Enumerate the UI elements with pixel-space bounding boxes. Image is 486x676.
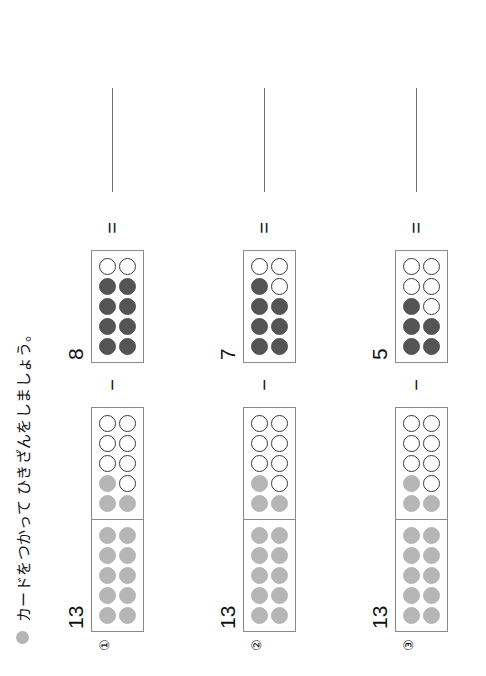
ten-frame-full (396, 520, 447, 631)
filled-circle-bullet-icon (16, 631, 29, 644)
counter-dot-empty (403, 278, 420, 295)
problem-row: ③ 13 − 5 = (348, 88, 468, 658)
counter-dot-empty (119, 258, 136, 275)
counter-dot-empty (99, 435, 116, 452)
counter-dot-filled (271, 495, 288, 512)
subtrahend-label: 5 (369, 348, 390, 360)
counter-dot-empty (403, 415, 420, 432)
counter-dot-filled (251, 547, 268, 564)
minuend-card (243, 407, 296, 632)
problem-number: ② (249, 632, 264, 658)
counter-dot-empty (99, 258, 116, 275)
counter-dot-filled (119, 278, 136, 295)
subtrahend-card-block: 8 (65, 250, 144, 363)
counter-dot-empty (119, 415, 136, 432)
ten-frame-full (92, 520, 143, 631)
counter-dot-empty (423, 435, 440, 452)
subtrahend-card (243, 250, 296, 363)
counter-dot-filled (403, 318, 420, 335)
counter-dot-filled (403, 527, 420, 544)
counter-dot-filled (99, 547, 116, 564)
counter-dot-filled (403, 567, 420, 584)
counter-dot-empty (423, 258, 440, 275)
counter-dot-filled (271, 527, 288, 544)
counter-dot-empty (403, 258, 420, 275)
counter-dot-filled (423, 318, 440, 335)
counter-dot-filled (271, 338, 288, 355)
counter-dot-empty (271, 455, 288, 472)
equals-operator: = (390, 206, 426, 250)
counter-dot-filled (423, 587, 440, 604)
counter-dot-filled (99, 318, 116, 335)
worksheet-title-text: カードをつかって ひきざんをしましょう。 (12, 327, 33, 622)
counter-dot-empty (271, 278, 288, 295)
counter-dot-filled (251, 278, 268, 295)
counter-dot-filled (271, 318, 288, 335)
subtrahend-card-block: 5 (369, 250, 448, 363)
minuend-card-block: 13 (65, 407, 144, 632)
counter-dot-filled (119, 298, 136, 315)
counter-dot-empty (423, 415, 440, 432)
subtrahend-label: 7 (217, 348, 238, 360)
counter-dot-filled (251, 338, 268, 355)
minus-operator: − (238, 363, 274, 407)
counter-dot-empty (119, 475, 136, 492)
counter-dot-filled (403, 338, 420, 355)
counter-dot-empty (423, 455, 440, 472)
subtrahend-card-block: 7 (217, 250, 296, 363)
minuend-label: 13 (65, 606, 86, 629)
counter-dot-empty (119, 455, 136, 472)
problem-row: ① 13 − 8 = (44, 88, 164, 658)
counter-dot-filled (271, 298, 288, 315)
counter-dot-filled (251, 587, 268, 604)
ten-frame-full (244, 520, 295, 631)
minuend-card-block: 13 (369, 407, 448, 632)
subtrahend-card (395, 250, 448, 363)
subtrahend-label: 8 (65, 348, 86, 360)
counter-dot-filled (423, 338, 440, 355)
counter-dot-filled (99, 338, 116, 355)
counter-dot-filled (251, 475, 268, 492)
counter-dot-filled (119, 567, 136, 584)
counter-dot-filled (251, 567, 268, 584)
counter-dot-empty (251, 258, 268, 275)
counter-dot-filled (119, 587, 136, 604)
counter-dot-filled (403, 495, 420, 512)
minuend-card (395, 407, 448, 632)
worksheet-title: カードをつかって ひきざんをしましょう。 (12, 327, 33, 644)
minus-operator: − (390, 363, 426, 407)
equals-operator: = (238, 206, 274, 250)
counter-dot-empty (271, 258, 288, 275)
answer-blank[interactable] (416, 88, 417, 192)
counter-dot-filled (251, 298, 268, 315)
counter-dot-filled (251, 318, 268, 335)
counter-dot-filled (99, 495, 116, 512)
counter-dot-filled (403, 587, 420, 604)
ten-frame-partial (92, 408, 143, 520)
counter-dot-filled (423, 547, 440, 564)
counter-dot-empty (271, 435, 288, 452)
counter-dot-empty (271, 415, 288, 432)
minuend-card-block: 13 (217, 407, 296, 632)
answer-blank[interactable] (264, 88, 265, 192)
counter-dot-filled (271, 587, 288, 604)
counter-dot-filled (119, 547, 136, 564)
ten-frame-subtrahend (396, 251, 447, 362)
counter-dot-filled (403, 607, 420, 624)
minus-operator: − (86, 363, 122, 407)
counter-dot-filled (99, 475, 116, 492)
counter-dot-filled (99, 587, 116, 604)
answer-blank[interactable] (112, 88, 113, 192)
problem-number: ① (97, 632, 112, 658)
counter-dot-empty (251, 455, 268, 472)
ten-frame-subtrahend (244, 251, 295, 362)
problem-row: ② 13 − 7 = (196, 88, 316, 658)
subtrahend-card (91, 250, 144, 363)
ten-frame-subtrahend (92, 251, 143, 362)
counter-dot-empty (423, 298, 440, 315)
counter-dot-empty (271, 475, 288, 492)
counter-dot-filled (423, 495, 440, 512)
problem-number: ③ (401, 632, 416, 658)
counter-dot-filled (119, 318, 136, 335)
counter-dot-empty (99, 415, 116, 432)
